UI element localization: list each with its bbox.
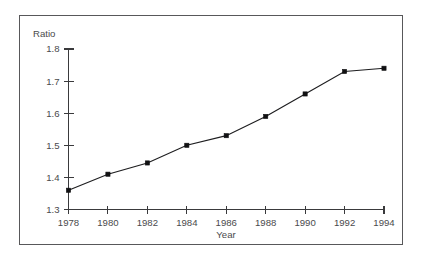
y-tick-label-1.3: 1.3 <box>46 204 59 215</box>
x-tick-label-1980: 1980 <box>97 217 118 228</box>
data-point-1984 <box>185 143 189 147</box>
series-line-ratio <box>69 68 385 190</box>
y-axis-title: Ratio <box>33 28 55 39</box>
clipped-header-strip: . . . . . . <box>0 0 424 13</box>
x-tick-label-1982: 1982 <box>137 217 158 228</box>
y-tick-label-group: 1.31.41.51.61.71.8 <box>46 43 60 215</box>
x-axis-title: Year <box>216 229 236 240</box>
x-tick-label-1978: 1978 <box>58 217 79 228</box>
data-point-1990 <box>303 92 307 96</box>
chart-canvas: 1.31.41.51.61.71.8 197819801982198419861… <box>20 16 404 246</box>
x-tick-label-1986: 1986 <box>216 217 237 228</box>
data-point-1994 <box>382 66 386 70</box>
series-marker-group <box>66 66 386 192</box>
y-tick-label-1.7: 1.7 <box>46 76 59 87</box>
x-tick-label-group: 197819801982198419861988199019921994 <box>58 217 396 228</box>
data-point-1986 <box>224 134 228 138</box>
data-point-1982 <box>145 161 149 165</box>
data-point-1978 <box>66 188 70 192</box>
x-tick-label-1994: 1994 <box>373 217 395 228</box>
axes-group <box>69 49 385 210</box>
y-tick-label-1.5: 1.5 <box>46 140 59 151</box>
x-tick-label-1984: 1984 <box>176 217 198 228</box>
data-point-1992 <box>342 69 346 73</box>
y-tick-label-1.4: 1.4 <box>46 172 60 183</box>
figure-frame: 1.31.41.51.61.71.8 197819801982198419861… <box>19 15 403 245</box>
clipped-header-text: . . . . . . <box>62 0 127 1</box>
x-tick-label-1988: 1988 <box>255 217 276 228</box>
x-tick-label-1992: 1992 <box>334 217 355 228</box>
line-chart: 1.31.41.51.61.71.8 197819801982198419861… <box>20 16 404 246</box>
data-point-1980 <box>106 172 110 176</box>
y-tick-label-1.6: 1.6 <box>46 108 59 119</box>
y-tick-label-1.8: 1.8 <box>46 43 59 54</box>
data-point-1988 <box>264 114 268 118</box>
x-tick-label-1990: 1990 <box>294 217 315 228</box>
